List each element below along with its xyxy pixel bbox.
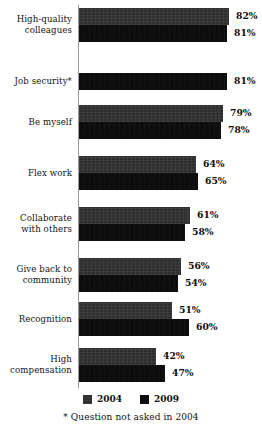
bar-value-label: 47% (172, 367, 194, 378)
bar-value-label: 58% (192, 226, 214, 237)
bar-2004[interactable] (79, 258, 181, 275)
bar-value-label: 51% (179, 304, 201, 315)
bar-value-label: 64% (203, 158, 225, 169)
category-label: Give back tocommunity (0, 264, 72, 285)
bar-2009[interactable] (79, 73, 227, 90)
legend-label: 2009 (154, 394, 179, 404)
bar-value-label: 56% (188, 260, 210, 271)
bar-2009[interactable] (79, 25, 227, 42)
bar-2009[interactable] (79, 365, 165, 382)
chart-footnote: * Question not asked in 2004 (0, 412, 262, 422)
category-label-line: compensation (0, 365, 72, 376)
legend-item-2009[interactable]: 2009 (140, 394, 179, 404)
category-label-line: Flex work (0, 168, 72, 179)
category-label: Be myself (0, 117, 72, 128)
bar-2009[interactable] (79, 275, 178, 292)
bar-2009[interactable] (79, 173, 198, 190)
category-label-line: Collaborate (0, 213, 72, 224)
bar-value-label: 60% (196, 321, 218, 332)
category-label-line: Give back to (0, 264, 72, 275)
bar-2009[interactable] (79, 224, 185, 241)
category-label: Highcompensation (0, 354, 72, 375)
legend-item-2004[interactable]: 2004 (83, 394, 122, 404)
category-label-line: colleagues (0, 25, 72, 36)
category-label-line: Recognition (0, 314, 72, 325)
category-label-line: community (0, 275, 72, 286)
bar-2004[interactable] (79, 302, 172, 319)
bar-value-label: 42% (163, 350, 185, 361)
legend-label: 2004 (97, 394, 122, 404)
bar-2004[interactable] (79, 105, 223, 122)
category-label: Job security* (0, 76, 72, 87)
bar-value-label: 79% (230, 107, 252, 118)
bar-2009[interactable] (79, 319, 189, 336)
category-label: Collaboratewith others (0, 213, 72, 234)
chart-legend: 20042009 (0, 394, 262, 404)
bar-value-label: 81% (234, 75, 256, 86)
category-label: Flex work (0, 168, 72, 179)
category-label-line: High (0, 354, 72, 365)
bar-value-label: 61% (197, 209, 219, 220)
bar-2009[interactable] (79, 122, 221, 139)
category-label-line: with others (0, 224, 72, 235)
bar-2004[interactable] (79, 207, 190, 224)
legend-swatch-2004-icon (83, 395, 92, 404)
category-label-line: High-quality (0, 14, 72, 25)
bar-2004[interactable] (79, 156, 196, 173)
category-label: Recognition (0, 314, 72, 325)
category-label-line: Job security* (0, 76, 72, 87)
bar-value-label: 54% (185, 277, 207, 288)
bar-value-label: 81% (234, 27, 256, 38)
category-label: High-qualitycolleagues (0, 14, 72, 35)
bar-value-label: 82% (236, 10, 258, 21)
category-label-line: Be myself (0, 117, 72, 128)
bar-2004[interactable] (79, 348, 156, 365)
legend-swatch-2009-icon (140, 395, 149, 404)
plot-area: High-qualitycolleagues82%81%Job security… (0, 0, 262, 392)
bar-2004[interactable] (79, 8, 229, 25)
bar-value-label: 65% (205, 175, 227, 186)
horizontal-bar-chart: High-qualitycolleagues82%81%Job security… (0, 0, 262, 434)
bar-value-label: 78% (228, 124, 250, 135)
